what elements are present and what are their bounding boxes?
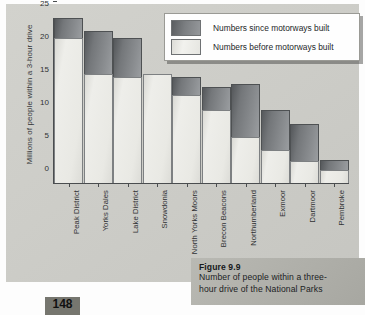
y-tick-25: 25 xyxy=(40,0,53,10)
bar-segment-before xyxy=(172,95,201,183)
x-axis-label-yorks-dales: Yorks Dales xyxy=(101,190,110,231)
x-axis-label-dartmoor: Dartmoor xyxy=(308,190,317,222)
x-tick-mark xyxy=(216,183,217,187)
bar-segment-before xyxy=(320,170,349,183)
bar-segment-since xyxy=(54,18,83,38)
bar-segment-since xyxy=(202,87,231,110)
bar-segment-since xyxy=(172,77,201,95)
page-number: 148 xyxy=(45,297,80,315)
legend-swatch-since-icon xyxy=(171,20,201,36)
x-tick-mark xyxy=(98,183,99,187)
x-axis-label-exmoor: Exmoor xyxy=(278,190,287,217)
bar-segment-since xyxy=(113,38,142,78)
bar-segment-before xyxy=(143,74,172,183)
x-tick-mark xyxy=(246,183,247,187)
legend-label-before: Numbers before motorways built xyxy=(213,42,334,52)
y-axis-title: Millions of people within a 3-hour drive xyxy=(25,20,34,170)
legend-label-since: Numbers since motorways built xyxy=(213,23,329,33)
figure-caption: Figure 9.9 Number of people within a thr… xyxy=(191,258,365,305)
bar-segment-since xyxy=(231,84,260,137)
bar-segment-since xyxy=(84,31,113,74)
figure-caption-title: Figure 9.9 xyxy=(199,262,358,272)
bar-north-yorks-moors xyxy=(172,77,201,183)
bar-segment-since xyxy=(320,160,349,170)
bar-dartmoor xyxy=(290,124,319,183)
bar-segment-before xyxy=(231,137,260,183)
y-tick-5: 5 xyxy=(45,124,53,142)
bar-segment-before xyxy=(202,110,231,183)
x-axis-label-brecon-beacons: Brecon Beacons xyxy=(219,190,228,247)
bar-peak-district xyxy=(54,18,83,183)
bar-northumberland xyxy=(231,84,260,183)
legend-swatch-before-icon xyxy=(171,39,201,55)
bar-pembroke xyxy=(320,160,349,183)
bar-segment-before xyxy=(290,161,319,183)
legend-item-before: Numbers before motorways built xyxy=(171,38,353,55)
x-tick-mark xyxy=(157,183,158,187)
bar-yorks-dales xyxy=(84,31,113,183)
legend-item-since: Numbers since motorways built xyxy=(171,19,353,36)
x-tick-mark xyxy=(128,183,129,187)
bar-exmoor xyxy=(261,110,290,183)
x-axis-label-pembroke: Pembroke xyxy=(337,190,346,225)
y-tick-10: 10 xyxy=(40,91,53,109)
bar-snowdonia xyxy=(143,74,172,183)
y-tick-label: 10 xyxy=(40,98,53,107)
y-tick-mark xyxy=(53,1,57,2)
x-axis-label-north-yorks-moors: North Yorks Moors xyxy=(190,190,199,254)
bar-segment-before xyxy=(54,38,83,183)
x-axis-label-lake-district: Lake District xyxy=(131,190,140,233)
chart-legend: Numbers since motorways built Numbers be… xyxy=(164,13,360,61)
x-tick-mark xyxy=(187,183,188,187)
y-tick-0: 0 xyxy=(45,157,53,175)
chart-panel: Millions of people within a 3-hour drive… xyxy=(6,4,359,282)
y-tick-label: 0 xyxy=(45,164,53,173)
x-axis-label-snowdonia: Snowdonia xyxy=(160,190,169,228)
y-tick-label: 25 xyxy=(40,0,53,8)
y-tick-20: 20 xyxy=(40,25,53,43)
y-tick-15: 15 xyxy=(40,58,53,76)
figure-caption-line-1: Number of people within a three- xyxy=(199,272,358,284)
x-axis-label-northumberland: Northumberland xyxy=(249,190,258,246)
bar-segment-since xyxy=(261,110,290,150)
figure-caption-line-2: hour drive of the National Parks xyxy=(199,284,358,296)
y-tick-label: 5 xyxy=(45,131,53,140)
bar-segment-before xyxy=(113,77,142,183)
y-tick-label: 15 xyxy=(40,65,53,74)
x-tick-mark xyxy=(275,183,276,187)
page: Millions of people within a 3-hour drive… xyxy=(0,0,365,315)
bar-segment-before xyxy=(261,150,290,183)
y-tick-label: 20 xyxy=(40,32,53,41)
x-tick-mark xyxy=(305,183,306,187)
bar-lake-district xyxy=(113,38,142,183)
bar-segment-before xyxy=(84,74,113,183)
x-axis-label-peak-district: Peak District xyxy=(72,190,81,234)
bar-segment-since xyxy=(290,124,319,162)
x-tick-mark xyxy=(334,183,335,187)
x-tick-mark xyxy=(69,183,70,187)
bar-brecon-beacons xyxy=(202,87,231,183)
